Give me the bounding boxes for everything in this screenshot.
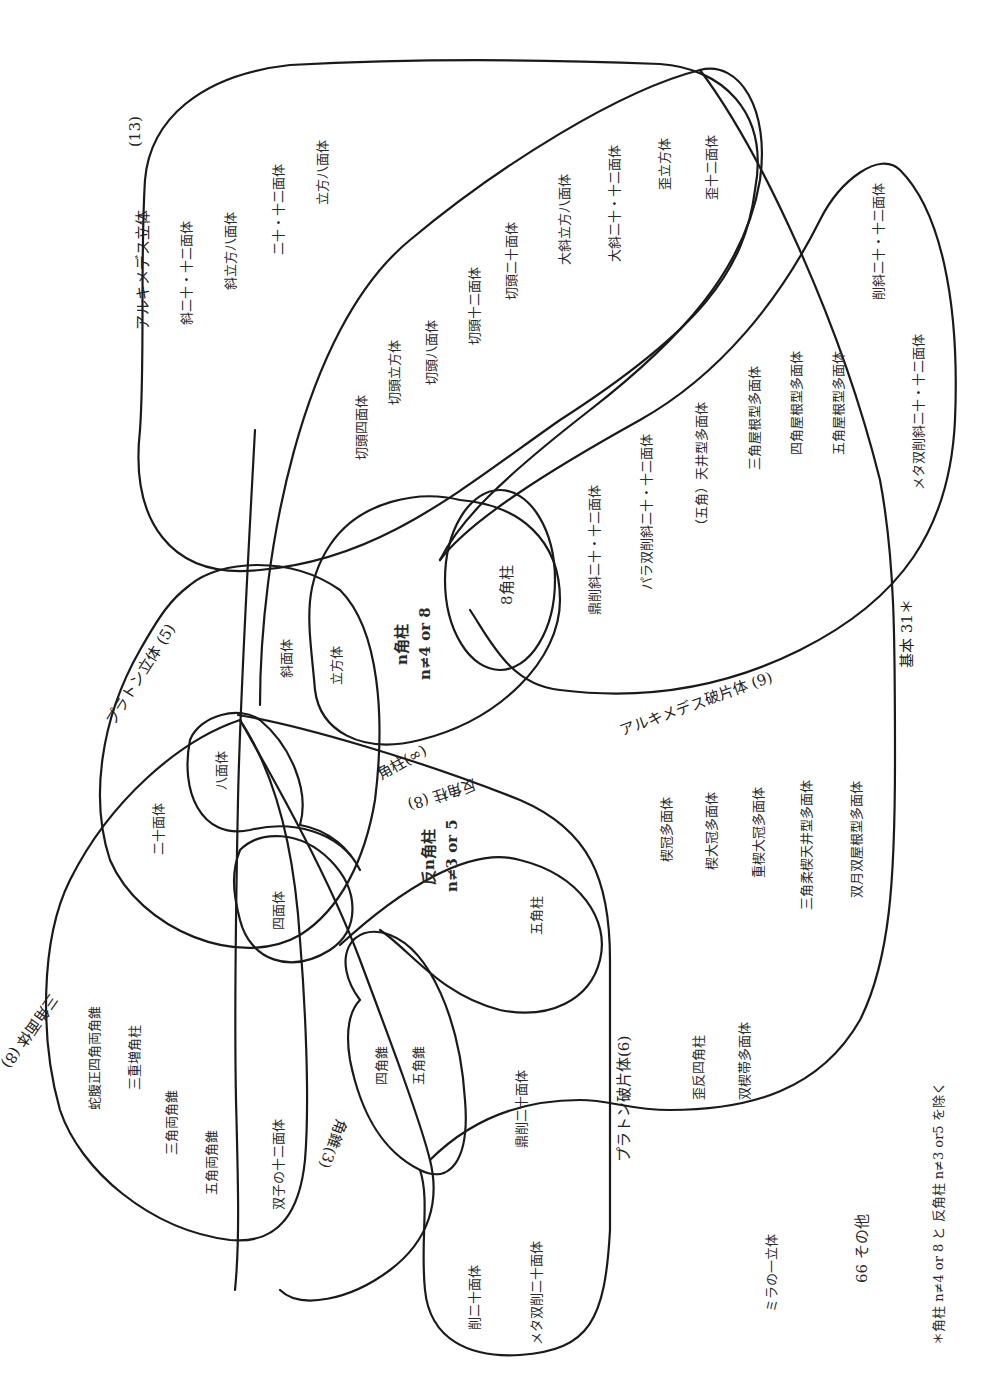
set-prisms-outline	[309, 496, 560, 744]
item-hebesphenomegacorona: 三角柔楔天井型多面体	[800, 780, 813, 910]
item-bilunabirotunda: 双月双屋根型多面体	[850, 781, 863, 898]
item-triangular-cupola: 三角屋根型多面体	[748, 366, 761, 470]
item-snub-cube: 歪立方体	[658, 138, 671, 190]
item-truncated-tetrahedron: 切頭四面体	[355, 395, 368, 460]
item-sphenocorona: 楔冠多面体	[660, 797, 673, 862]
item-truncated-dodecahedron: 切頭十二面体	[468, 267, 481, 345]
item-tetrahedron: 四面体	[272, 891, 285, 930]
item-metabidiminished-rhombicosidodecahedron: メタ双削斜二十・十二面体	[912, 334, 925, 490]
item-snub-icosidodecahedron: 斜二十・十二面体	[180, 221, 193, 325]
item-cuboctahedron: 立方八面体	[316, 140, 329, 205]
item-square-pyramid: 四角錐	[375, 1046, 388, 1085]
item-truncated-cube: 切頭立方体	[388, 340, 401, 405]
item-truncated-icosahedron: 切頭二十面体	[505, 222, 518, 300]
item-rhombic-solid: 斜面体	[280, 639, 293, 678]
item-snub-disphenoid: 蛇腹正四角両角錐	[88, 1006, 101, 1110]
item-snub-square-antiprism: 歪反四角柱	[692, 1035, 705, 1100]
set-pentagonal-prism-outline	[340, 857, 602, 1012]
item-sphenomegacorona: 重楔大冠多面体	[752, 787, 765, 878]
set-basic-outline	[430, 70, 895, 1160]
item-diminished-icosahedron: 削二十面体	[468, 1265, 481, 1330]
item-icosahedron: 二十面体	[152, 803, 165, 855]
item-antiprism-line1: 反n角柱	[422, 829, 437, 885]
item-pentagonal-cupola: 五角屋根型多面体	[832, 351, 845, 455]
item-diminished-rhombicosidodecahedron: 削斜二十・十二面体	[872, 183, 885, 300]
item-n-prism-line2: n≠4 or 8	[418, 607, 433, 680]
item-icosidodecahedron: 二十・十二面体	[272, 164, 285, 255]
item-square-cupola: 四角屋根型多面体	[790, 351, 803, 455]
item-triangular-bipyramid: 三角両角錐	[165, 1090, 178, 1155]
item-parabidiminished-rhombicosidodecahedron: パラ双削斜二十・十二面体	[640, 434, 653, 590]
item-tridiminished-icosahedron: 鼎削二十面体	[515, 1070, 528, 1148]
item-n-prism-line1: n角柱	[395, 624, 410, 665]
item-tridiminished-rhombicosidodecahedron: 鼎削斜二十・十二面体	[588, 485, 601, 615]
item-disphenocingulum: 双楔帯多面体	[738, 1022, 751, 1100]
item-great-rhombicuboctahedron: 大斜立方八面体	[558, 174, 571, 265]
item-pentagonal-rotunda: （五角）天井型多面体	[695, 402, 708, 532]
item-rhombicuboctahedron: 斜立方八面体	[224, 212, 237, 290]
label-archimedean-count: (13)	[128, 116, 143, 147]
item-cube: 立方体	[330, 646, 343, 685]
item-metabidiminished-icosahedron: メタ双削二十面体	[530, 1241, 543, 1345]
set-fragments-crossing-line	[240, 720, 434, 1300]
item-snub-dodecahedron: 歪十二面体	[705, 135, 718, 200]
item-truncated-octahedron: 切頭八面体	[425, 320, 438, 385]
set-fragments-vertical-line	[235, 430, 255, 1290]
item-pentagonal-prism: 五角柱	[530, 896, 543, 935]
item-octagonal-prism: 8角柱	[500, 565, 515, 605]
set-archimedean-inner-outline	[260, 69, 762, 705]
set-deltahedra-outline	[46, 720, 307, 1240]
label-archimedean: アルキメデス立体	[136, 210, 151, 330]
item-antiprism-line2: n≠3 or 5	[445, 819, 460, 892]
item-augmented-sphenocorona: 楔大冠多面体	[705, 792, 718, 870]
item-pentagonal-pyramid: 五角錐	[412, 1046, 425, 1085]
item-triaugmented-triangular-prism: 三重増角柱	[128, 1025, 141, 1090]
set-archimedean-outline	[139, 60, 758, 571]
set-antiprisms-outline	[238, 715, 610, 1355]
item-octahedron: 八面体	[215, 751, 228, 790]
item-miller-solid: ミラの一立体	[765, 1234, 778, 1312]
item-great-rhombicosidodecahedron: 大斜二十・十二面体	[608, 145, 621, 262]
label-basic: 基本 31＊	[900, 599, 915, 668]
item-pentagonal-bipyramid: 五角両角錐	[205, 1130, 218, 1195]
item-other-66: 66 その他	[855, 1214, 870, 1283]
footnote: ＊角柱 n≠4 or 8 と 反角柱 n≠3 or5 を除く	[932, 1082, 945, 1345]
label-platonic-fragments: プラトン破片体(6)	[617, 1036, 632, 1162]
item-snub-disphenoid-twin: 双子の十二面体	[272, 1119, 285, 1210]
